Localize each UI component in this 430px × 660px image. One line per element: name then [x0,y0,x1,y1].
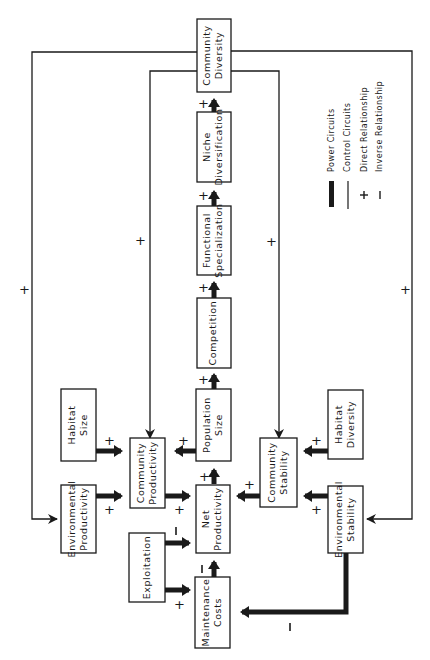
legend-power-swatch [329,181,334,207]
node-label: Population [201,397,212,453]
node-label: Environmental [66,481,77,558]
sign-plus: + [198,280,209,295]
node-environmental-productivity: Environmental Productivity [61,481,96,558]
legend-label-inverse: Inverse Relationship [375,81,384,172]
legend: Power Circuits Control Circuits Direct R… [327,81,384,209]
node-net-productivity: Net Productivity [196,485,230,553]
node-label: Community [201,25,212,85]
node-community-stability: Community Stability [260,438,297,507]
node-label: Costs [212,598,223,627]
node-community-diversity: Community Diversity [197,19,231,92]
sign-plus: + [178,433,189,448]
node-label: Maintenance [200,579,211,647]
node-label: Productivity [78,487,89,551]
sign-plus: + [174,502,185,517]
node-label: Productivity [212,487,223,551]
node-exploitation: Exploitation [129,533,165,602]
sign-plus: + [19,282,30,297]
node-label: Stability [278,450,289,494]
node-label: Environmental [333,481,344,558]
sign-plus: + [198,372,209,387]
node-label: Community [135,443,146,503]
node-habitat-diversity: Habitat Diversity [328,390,363,459]
node-niche-diversification: Niche Diversification [197,108,231,185]
node-label: Diversity [213,32,224,80]
node-habitat-size: Habitat Size [61,389,96,461]
node-functional-specialization: Functional Specialization [197,203,231,277]
node-competition: Competition [197,298,231,368]
node-label: Size [78,414,89,436]
ecosystem-feedback-diagram: Community Diversity Niche Diversificatio… [0,0,430,660]
sign-plus: + [104,502,115,517]
control-line-diversity-to-community-productivity [150,71,197,438]
node-label: Competition [207,301,218,366]
legend-label-power: Power Circuits [327,108,336,172]
node-environmental-stability: Environmental Stability [328,481,363,558]
sign-plus: + [135,233,146,248]
sign-plus: + [311,433,322,448]
sign-plus: + [104,433,115,448]
node-label: Niche [201,132,212,162]
node-community-productivity: Community Productivity [130,438,165,508]
sign-plus: + [266,234,277,249]
sign-plus: + [311,502,322,517]
node-label: Functional [201,213,212,268]
node-label: Community [266,442,277,502]
power-arrow-env-stability-to-maintenance [242,553,346,612]
node-label: Net [200,510,211,528]
legend-label-control: Control Circuits [343,103,352,172]
node-label: Habitat [66,405,77,444]
sign-plus: + [199,469,210,484]
control-line-diversity-to-community-stability [231,71,279,438]
node-label: Exploitation [141,536,152,600]
sign-plus: + [198,188,209,203]
node-label: Specialization [213,203,224,277]
node-label: Diversity [345,401,356,449]
legend-label-direct: Direct Relationship [360,87,369,172]
node-maintenance-costs: Maintenance Costs [195,577,230,648]
node-label: Size [213,414,224,436]
node-label: Stability [345,497,356,541]
node-label: Habitat [333,405,344,444]
node-label: Diversification [213,108,224,185]
sign-plus: + [198,96,209,111]
sign-plus: + [244,477,255,492]
node-label: Productivity [147,441,158,505]
node-population-size: Population Size [196,389,231,461]
sign-plus: + [174,597,185,612]
sign-plus: + [400,282,411,297]
